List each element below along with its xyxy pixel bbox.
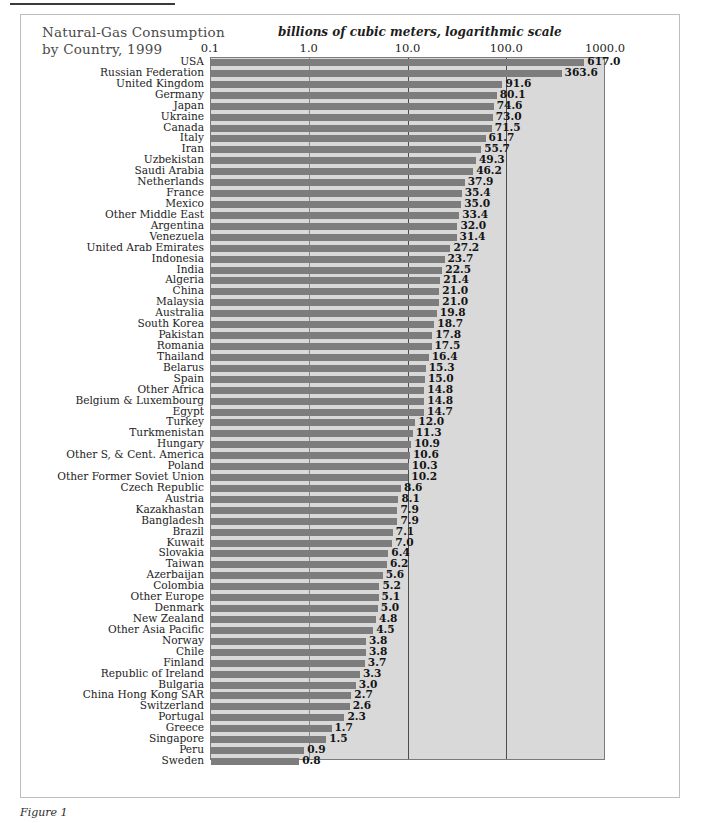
- bar: [211, 103, 494, 110]
- x-axis-label: billions of cubic meters, logarithmic sc…: [278, 25, 562, 39]
- bar-value-label: 23.7: [448, 253, 474, 264]
- x-axis-ticks: 0.11.010.0100.01000.0: [0, 41, 660, 56]
- bar: [211, 168, 473, 175]
- chart-row: Singapore1.5: [0, 734, 660, 745]
- bar: [211, 572, 383, 579]
- bar: [211, 70, 562, 77]
- category-label: Other Africa: [137, 384, 204, 395]
- chart-row: Thailand16.4: [0, 352, 660, 363]
- chart-row: Austria8.1: [0, 494, 660, 505]
- category-label: Ukraine: [161, 111, 204, 122]
- bar: [211, 365, 426, 372]
- bar: [211, 703, 350, 710]
- chart-row: Uzbekistan49.3: [0, 155, 660, 166]
- bar: [211, 714, 344, 721]
- bar: [211, 409, 424, 416]
- bar: [211, 441, 411, 448]
- bar: [211, 594, 379, 601]
- bar: [211, 212, 459, 219]
- bar: [211, 179, 465, 186]
- chart-row: Iran55.7: [0, 144, 660, 155]
- bar: [211, 561, 387, 568]
- bar: [211, 649, 366, 656]
- top-rule: [10, 3, 175, 5]
- category-label: Republic of Ireland: [101, 668, 204, 679]
- bar-value-label: 3.3: [363, 668, 381, 679]
- bar-value-label: 14.8: [427, 384, 453, 395]
- bar: [211, 223, 457, 230]
- bar: [211, 299, 439, 306]
- bar: [211, 190, 462, 197]
- chart-row: Malaysia21.0: [0, 297, 660, 308]
- bar: [211, 682, 356, 689]
- bar-value-label: 14.8: [427, 395, 453, 406]
- chart-row: Pakistan17.8: [0, 330, 660, 341]
- chart-row: Japan74.6: [0, 101, 660, 112]
- chart-row: Chile3.8: [0, 647, 660, 658]
- bar: [211, 485, 401, 492]
- chart-row: Finland3.7: [0, 658, 660, 669]
- bar: [211, 529, 393, 536]
- chart-row: Switzerland2.6: [0, 701, 660, 712]
- category-label: Sweden: [162, 755, 204, 766]
- chart-row: Turkey12.0: [0, 417, 660, 428]
- bar-value-label: 73.0: [496, 111, 522, 122]
- bar: [211, 157, 476, 164]
- chart-row: Spain15.0: [0, 374, 660, 385]
- bar: [211, 201, 461, 208]
- chart-row: Egypt14.7: [0, 407, 660, 418]
- bar: [211, 430, 413, 437]
- x-axis-tick-label: 1000.0: [585, 41, 625, 55]
- bar: [211, 343, 432, 350]
- chart-row: Australia19.8: [0, 308, 660, 319]
- bar: [211, 452, 410, 459]
- chart-row: Canada71.5: [0, 123, 660, 134]
- chart-row: Peru0.9: [0, 745, 660, 756]
- bar-value-label: 7.1: [396, 526, 414, 537]
- category-label: Belgium & Luxembourg: [75, 395, 204, 406]
- bar-value-label: 1.5: [329, 733, 347, 744]
- bar-rows: USA617.0Russian Federation363.6United Ki…: [0, 57, 660, 760]
- bar: [211, 419, 415, 426]
- bar: [211, 354, 429, 361]
- bar-value-label: 0.8: [302, 755, 320, 766]
- bar: [211, 518, 397, 525]
- chart-row: Mexico35.0: [0, 199, 660, 210]
- x-axis-tick-label: 10.0: [395, 41, 421, 55]
- bar: [211, 135, 486, 142]
- figure-caption: Figure 1: [20, 806, 68, 819]
- bar: [211, 288, 439, 295]
- bar: [211, 550, 388, 557]
- bar: [211, 725, 332, 732]
- chart-row: Algeria21.4: [0, 275, 660, 286]
- bar: [211, 277, 440, 284]
- chart-row: Taiwan6.2: [0, 559, 660, 570]
- bar: [211, 321, 434, 328]
- chart-row: Belgium & Luxembourg14.8: [0, 396, 660, 407]
- bar: [211, 256, 445, 263]
- chart-row: Brazil7.1: [0, 527, 660, 538]
- chart-row: Norway3.8: [0, 636, 660, 647]
- chart-title-line1: Natural-Gas Consumption: [42, 24, 225, 41]
- bar: [211, 463, 409, 470]
- bar: [211, 638, 366, 645]
- chart-row: USA617.0: [0, 57, 660, 68]
- chart-row: Sweden0.8: [0, 756, 660, 767]
- chart-row: Other S, & Cent. America10.6: [0, 450, 660, 461]
- bar: [211, 376, 425, 383]
- bar: [211, 692, 351, 699]
- bar: [211, 660, 365, 667]
- chart-row: Other Former Soviet Union10.2: [0, 472, 660, 483]
- bar: [211, 332, 432, 339]
- chart-row: Kuwait7.0: [0, 538, 660, 549]
- bar: [211, 92, 497, 99]
- chart-row: Germany80.1: [0, 90, 660, 101]
- chart-row: Argentina32.0: [0, 221, 660, 232]
- category-label: Brazil: [172, 526, 204, 537]
- chart-row: Kazakhastan7.9: [0, 505, 660, 516]
- chart-row: Portugal2.3: [0, 712, 660, 723]
- chart-row: Czech Republic8.6: [0, 483, 660, 494]
- chart-row: France35.4: [0, 188, 660, 199]
- chart-row: Colombia5.2: [0, 581, 660, 592]
- bar: [211, 310, 437, 317]
